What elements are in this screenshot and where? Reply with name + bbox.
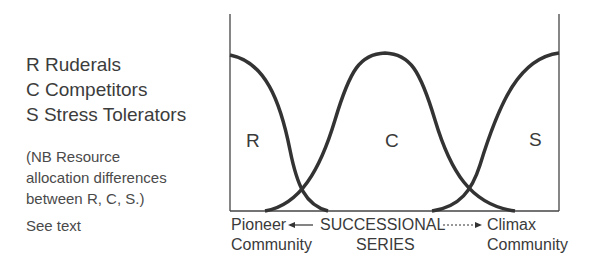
x-label-climax: Climax [487,216,536,233]
x-label-community-left: Community [231,236,312,253]
x-label-community-right: Community [487,236,568,253]
arrow-left-icon [288,222,313,228]
x-label-pioneer: Pioneer [231,216,287,233]
curve-r [230,55,328,211]
curve-label-c: C [385,130,399,151]
x-label-series: SERIES [356,236,415,253]
curve-label-s: S [529,129,542,150]
x-label-successional: SUCCESSIONAL [320,216,445,233]
arrow-right-dotted-icon [443,222,482,228]
succession-diagram: R C S Pioneer Community SUCCESSIONAL SER… [0,0,591,264]
curve-label-r: R [246,130,260,151]
